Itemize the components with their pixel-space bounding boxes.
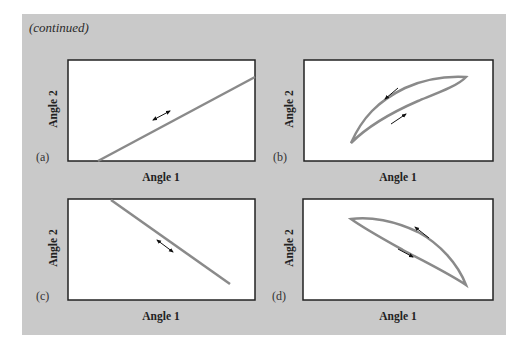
panel-a-label: (a) xyxy=(36,150,49,165)
plot-frame xyxy=(68,60,255,161)
panel-c-plot xyxy=(68,199,255,300)
panel-c-xlabel: Angle 1 xyxy=(81,310,241,322)
panel-b-ylabel: Angle 2 xyxy=(283,69,295,149)
panel-b-plot xyxy=(304,60,493,161)
panel-d-plot xyxy=(303,199,493,300)
plot-frame xyxy=(68,199,255,300)
panel-a-plot xyxy=(68,60,255,161)
panel-a-xlabel: Angle 1 xyxy=(81,171,241,183)
panel-d-xlabel: Angle 1 xyxy=(318,310,478,322)
panel-b-label: (b) xyxy=(273,150,287,165)
panel-d-ylabel: Angle 2 xyxy=(283,208,295,288)
panel-d-label: (d) xyxy=(272,289,286,304)
panel-c-label: (c) xyxy=(36,289,49,304)
panel-a-ylabel: Angle 2 xyxy=(47,69,59,149)
panel-c-ylabel: Angle 2 xyxy=(47,208,59,288)
panel-b-xlabel: Angle 1 xyxy=(318,171,478,183)
